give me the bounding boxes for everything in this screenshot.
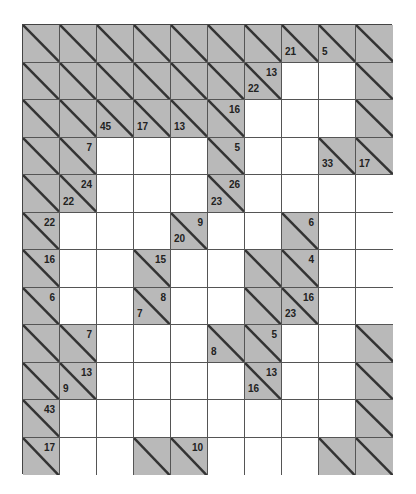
- entry-cell[interactable]: [208, 400, 245, 438]
- entry-cell[interactable]: [171, 288, 208, 326]
- across-clue: 9: [197, 218, 203, 228]
- entry-cell[interactable]: [97, 325, 134, 363]
- entry-cell[interactable]: [319, 100, 356, 138]
- entry-cell[interactable]: [97, 400, 134, 438]
- entry-cell[interactable]: [319, 175, 356, 213]
- clue-cell: 15: [134, 250, 171, 288]
- clue-cell: 5: [208, 138, 245, 176]
- entry-cell[interactable]: [319, 213, 356, 251]
- entry-cell[interactable]: [97, 138, 134, 176]
- clue-cell: 7: [60, 325, 97, 363]
- diagonal-divider-icon: [356, 63, 393, 100]
- entry-cell[interactable]: [208, 438, 245, 476]
- entry-cell[interactable]: [245, 400, 282, 438]
- entry-cell[interactable]: [208, 250, 245, 288]
- entry-cell[interactable]: [356, 213, 393, 251]
- entry-cell[interactable]: [171, 400, 208, 438]
- entry-cell[interactable]: [134, 213, 171, 251]
- entry-cell[interactable]: [171, 138, 208, 176]
- entry-cell[interactable]: [282, 63, 319, 101]
- blank-block-cell: [356, 363, 393, 401]
- entry-cell[interactable]: [60, 288, 97, 326]
- across-clue: 4: [308, 255, 314, 265]
- entry-cell[interactable]: [134, 363, 171, 401]
- entry-cell[interactable]: [356, 250, 393, 288]
- entry-cell[interactable]: [97, 288, 134, 326]
- entry-cell[interactable]: [60, 400, 97, 438]
- entry-cell[interactable]: [282, 175, 319, 213]
- down-clue: 33: [322, 159, 333, 169]
- entry-cell[interactable]: [356, 288, 393, 326]
- entry-cell[interactable]: [282, 100, 319, 138]
- entry-cell[interactable]: [134, 175, 171, 213]
- down-clue: 21: [285, 47, 296, 57]
- entry-cell[interactable]: [97, 250, 134, 288]
- entry-cell[interactable]: [319, 400, 356, 438]
- blank-block-cell: [356, 63, 393, 101]
- clue-cell: 10: [171, 438, 208, 476]
- diagonal-divider-icon: [245, 250, 281, 287]
- entry-cell[interactable]: [134, 400, 171, 438]
- entry-cell[interactable]: [97, 213, 134, 251]
- entry-cell[interactable]: [245, 138, 282, 176]
- across-clue: 7: [86, 143, 92, 153]
- diagonal-divider-icon: [245, 25, 281, 62]
- diagonal-divider-icon: [245, 288, 281, 325]
- blank-block-cell: [23, 363, 60, 401]
- entry-cell[interactable]: [134, 325, 171, 363]
- down-clue: 17: [359, 159, 370, 169]
- entry-cell[interactable]: [134, 138, 171, 176]
- down-clue: 7: [137, 309, 143, 319]
- entry-cell[interactable]: [60, 250, 97, 288]
- entry-cell[interactable]: [245, 175, 282, 213]
- entry-cell[interactable]: [282, 400, 319, 438]
- entry-cell[interactable]: [245, 438, 282, 476]
- clue-cell: 7: [60, 138, 97, 176]
- diagonal-divider-icon: [23, 25, 59, 62]
- clue-cell: 2623: [208, 175, 245, 213]
- entry-cell[interactable]: [97, 438, 134, 476]
- clue-cell: 5: [319, 25, 356, 63]
- entry-cell[interactable]: [319, 63, 356, 101]
- entry-cell[interactable]: [282, 438, 319, 476]
- blank-block-cell: [356, 325, 393, 363]
- entry-cell[interactable]: [208, 213, 245, 251]
- entry-cell[interactable]: [60, 213, 97, 251]
- entry-cell[interactable]: [208, 288, 245, 326]
- clue-cell: 21: [282, 25, 319, 63]
- clue-cell: 45: [97, 100, 134, 138]
- entry-cell[interactable]: [245, 213, 282, 251]
- blank-block-cell: [245, 288, 282, 326]
- blank-block-cell: [97, 63, 134, 101]
- across-clue: 17: [44, 443, 55, 453]
- entry-cell[interactable]: [245, 100, 282, 138]
- entry-cell[interactable]: [319, 325, 356, 363]
- entry-cell[interactable]: [319, 363, 356, 401]
- entry-cell[interactable]: [208, 363, 245, 401]
- entry-cell[interactable]: [282, 325, 319, 363]
- entry-cell[interactable]: [171, 363, 208, 401]
- entry-cell[interactable]: [97, 363, 134, 401]
- diagonal-divider-icon: [356, 363, 393, 400]
- entry-cell[interactable]: [356, 175, 393, 213]
- down-clue: 13: [174, 122, 185, 132]
- entry-cell[interactable]: [282, 138, 319, 176]
- across-clue: 6: [308, 218, 314, 228]
- down-clue: 45: [100, 122, 111, 132]
- entry-cell[interactable]: [319, 250, 356, 288]
- diagonal-divider-icon: [356, 100, 393, 137]
- blank-block-cell: [60, 25, 97, 63]
- diagonal-divider-icon: [356, 438, 393, 476]
- entry-cell[interactable]: [319, 288, 356, 326]
- clue-cell: 16: [208, 100, 245, 138]
- entry-cell[interactable]: [171, 325, 208, 363]
- blank-block-cell: [319, 438, 356, 476]
- entry-cell[interactable]: [171, 250, 208, 288]
- entry-cell[interactable]: [171, 175, 208, 213]
- blank-block-cell: [356, 25, 393, 63]
- diagonal-divider-icon: [97, 25, 133, 62]
- entry-cell[interactable]: [97, 175, 134, 213]
- entry-cell[interactable]: [60, 438, 97, 476]
- across-clue: 16: [229, 105, 240, 115]
- entry-cell[interactable]: [282, 363, 319, 401]
